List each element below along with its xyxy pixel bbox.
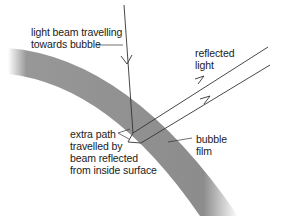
extra-path-label: extra path travelled by beam reflected f… [70,128,157,176]
arrow-down-icon [121,55,132,64]
arrow-up-right-icon [200,96,210,104]
incident-beam-label: light beam travelling towards bubble [31,26,122,50]
reflected-light-label: reflected light [195,47,234,71]
arrow-up-right-icon [195,76,204,84]
bubble-film-label: bubble film [196,133,227,157]
